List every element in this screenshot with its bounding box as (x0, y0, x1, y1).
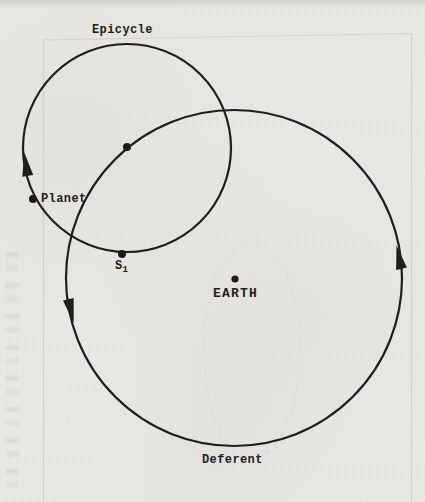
s1-label: S1 (115, 260, 128, 277)
scanned-figure-page: Epicycle Planet S1 EARTH Deferent (0, 0, 425, 502)
epicycle-deferent-diagram (0, 0, 425, 502)
s1-label-base: S (115, 259, 123, 273)
earth-label: EARTH (213, 287, 258, 300)
planet-label: Planet (41, 193, 87, 206)
deferent-label: Deferent (202, 454, 263, 467)
epicycle-center-dot (123, 143, 131, 151)
earth-dot (231, 275, 238, 282)
s1-dot (118, 250, 126, 258)
ghost-frame (44, 34, 412, 502)
ghost-ellipse (204, 242, 300, 458)
epicycle-label: Epicycle (92, 24, 153, 37)
epicycle-arrow-icon (19, 151, 33, 176)
planet-dot (29, 195, 37, 203)
s1-label-subscript: 1 (123, 265, 129, 275)
